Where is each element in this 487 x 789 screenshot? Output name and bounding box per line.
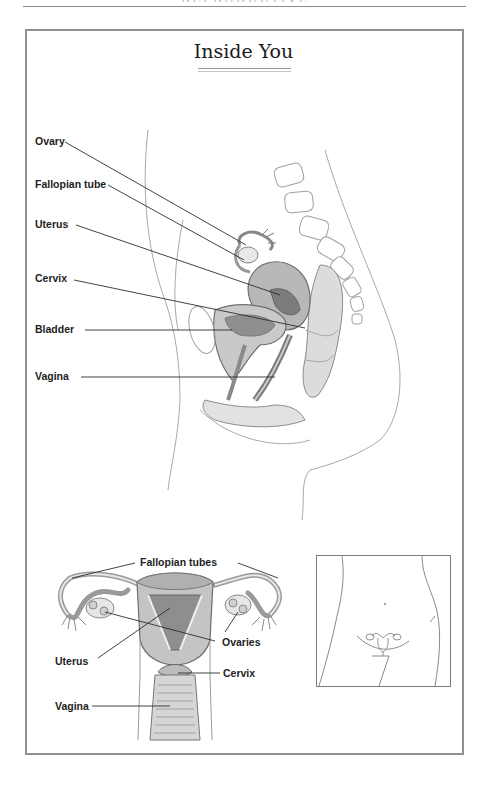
torso-inset [316,555,451,687]
label-fallopian-tubes: Fallopian tubes [140,556,217,568]
label-ovaries: Ovaries [222,636,261,648]
torso-location-illustration [317,556,450,686]
label-vagina-front: Vagina [55,700,89,712]
label-cervix-front: Cervix [223,667,255,679]
label-uterus-front: Uterus [55,655,88,667]
